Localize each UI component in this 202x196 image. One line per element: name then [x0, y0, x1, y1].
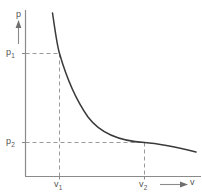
pv-diagram-canvas	[0, 0, 202, 196]
y-tick-label-p1: p1	[6, 48, 15, 59]
x-axis-label: v	[190, 178, 195, 187]
isotherm-curve	[53, 13, 197, 152]
x-tick-label-v1: v1	[54, 180, 63, 191]
pv-diagram-figure: p p1 p2 v1 v2 v	[0, 0, 202, 196]
y-axis-label: p	[16, 10, 21, 19]
y-tick-label-p2: p2	[6, 137, 15, 148]
x-tick-label-v2: v2	[139, 180, 148, 191]
y-axis-arrow-icon	[16, 20, 22, 28]
x-axis-arrow-icon	[180, 182, 188, 188]
